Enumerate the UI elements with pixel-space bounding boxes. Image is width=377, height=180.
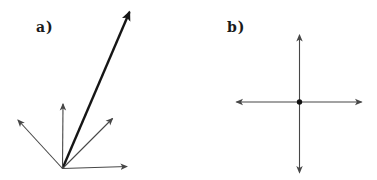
vector-up-right [63,119,113,169]
vector-right [63,167,128,169]
panel-a-label: a) [36,20,54,35]
panel-a-vectors [18,12,130,169]
panel-b-axes [237,35,362,173]
vector-up [63,104,64,169]
vector-up-left [18,120,63,169]
vector-diagram [0,0,377,180]
panel-b-label: b) [227,20,245,35]
bold-long-vector-up-right [63,12,130,169]
figure-canvas: a) b) [0,0,377,180]
center-dot [297,99,302,104]
